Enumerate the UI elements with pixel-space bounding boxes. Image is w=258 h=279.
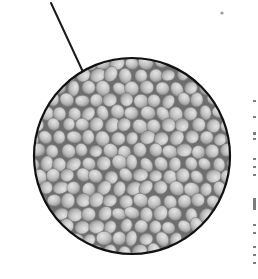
magnified-view: [14, 39, 245, 262]
edge-text-fragment: [253, 254, 256, 256]
grain: [30, 67, 47, 83]
grain: [226, 80, 244, 96]
grain: [43, 243, 62, 260]
grain: [47, 43, 59, 58]
edge-text-fragment: [253, 262, 256, 264]
grain: [31, 246, 45, 260]
edge-text-fragment: [253, 246, 256, 248]
edge-text-fragment: [253, 116, 256, 118]
grain: [24, 183, 39, 198]
grain: [211, 232, 229, 248]
edge-text-fragment: [253, 224, 256, 226]
edge-text-fragment: [253, 232, 256, 234]
grain: [219, 40, 237, 58]
grain: [18, 247, 32, 259]
grain: [182, 52, 197, 70]
grain-field: [14, 39, 245, 262]
grain: [75, 95, 89, 106]
grain: [192, 41, 207, 58]
grain: [82, 130, 94, 145]
grain: [47, 194, 61, 206]
grain: [17, 43, 31, 58]
grain: [20, 228, 40, 248]
leader-line: [51, 3, 83, 72]
grain: [198, 233, 215, 247]
grain: [163, 43, 177, 58]
grain: [61, 244, 74, 257]
grain: [15, 67, 29, 80]
grain: [218, 92, 234, 108]
grain: [23, 54, 42, 74]
grain: [53, 130, 66, 144]
grain: [36, 80, 53, 97]
grain: [23, 81, 38, 94]
grain: [130, 40, 149, 59]
grain: [18, 93, 33, 107]
edge-text-fragment: [253, 138, 256, 140]
grain: [175, 118, 189, 132]
grain: [225, 229, 243, 247]
grain: [147, 41, 164, 58]
grain: [44, 66, 62, 84]
grain: [17, 194, 34, 211]
edge-text-fragment: [253, 100, 256, 102]
grain: [226, 206, 243, 224]
grain: [22, 207, 40, 224]
grain: [103, 41, 119, 57]
grain: [29, 90, 47, 110]
grain: [226, 54, 243, 70]
grain: [174, 242, 193, 261]
edge-text-fragment: [253, 174, 256, 176]
grain: [67, 181, 81, 194]
grain: [30, 39, 47, 58]
grain: [218, 218, 236, 236]
grain: [204, 41, 223, 59]
edge-text-fragment: [253, 166, 256, 168]
grain: [30, 143, 45, 156]
grain: [222, 69, 234, 83]
grain: [204, 244, 223, 262]
magnified-grain-diagram: [0, 0, 258, 279]
grain: [52, 230, 67, 246]
grain: [228, 106, 243, 120]
grain: [14, 117, 33, 135]
grain: [210, 54, 230, 74]
edge-text-fragment: [253, 198, 256, 210]
edge-text-fragment: [253, 132, 256, 135]
grain: [195, 54, 213, 72]
grain: [205, 68, 220, 84]
grain: [37, 52, 55, 70]
grain: [24, 105, 37, 121]
grain: [189, 243, 205, 259]
grain: [52, 56, 69, 70]
cropped-adjacent-text-marks: [253, 96, 258, 266]
grain: [38, 230, 55, 246]
grain: [209, 77, 229, 97]
grain: [218, 242, 236, 260]
grain: [32, 220, 46, 234]
grain: [120, 92, 133, 106]
grain: [15, 142, 33, 161]
grain: [16, 219, 34, 237]
grain: [17, 167, 34, 183]
scan-speck: [220, 11, 223, 14]
grain: [73, 243, 90, 260]
grain: [71, 39, 91, 58]
grain: [82, 80, 96, 94]
edge-text-fragment: [253, 158, 256, 160]
grain: [173, 39, 191, 58]
grain: [96, 231, 112, 245]
grain: [89, 44, 103, 59]
grain: [116, 41, 134, 59]
